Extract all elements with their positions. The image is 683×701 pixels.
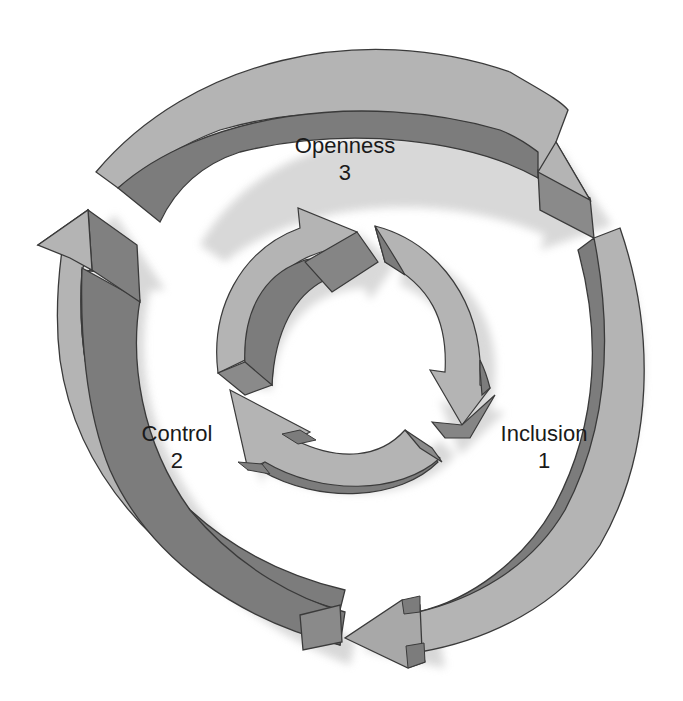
stage-number: 2	[142, 447, 213, 474]
stage-name: Openness	[295, 132, 395, 159]
stage-number: 1	[501, 447, 588, 474]
cycle-diagram	[0, 0, 683, 701]
stage-label-control: Control 2	[142, 420, 213, 474]
arrow-head-barb-bottom	[406, 643, 425, 668]
stage-label-inclusion: Inclusion 1	[501, 420, 588, 474]
arrow-head-barb-top	[402, 596, 420, 614]
stage-name: Inclusion	[501, 420, 588, 447]
stage-name: Control	[142, 420, 213, 447]
stage-number: 3	[295, 159, 395, 186]
stage-label-openness: Openness 3	[295, 132, 395, 186]
